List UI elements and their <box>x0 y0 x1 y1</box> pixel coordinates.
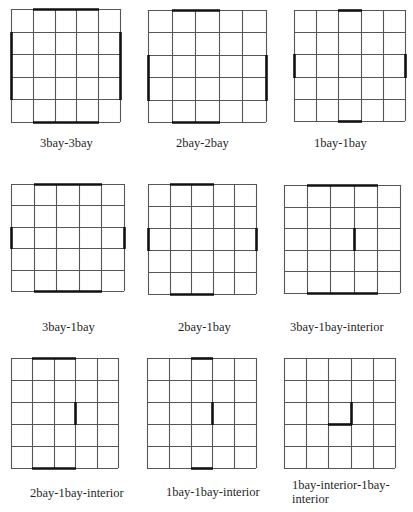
grid-diagram <box>284 358 395 468</box>
grid-diagram <box>148 10 266 122</box>
grid-diagram <box>148 184 256 294</box>
panel-3bay-3bay <box>11 9 120 122</box>
panel-caption: 3bay-1bay-interior <box>290 320 384 334</box>
panel-caption: 3bay-1bay <box>42 320 95 334</box>
grid-diagram <box>294 10 405 121</box>
grid-diagram <box>11 184 124 291</box>
panel-3bay-1bay-interior <box>284 185 400 293</box>
panel-3bay-1bay <box>11 184 124 291</box>
panel-1bay-interior-1bay-interior <box>284 358 395 468</box>
panel-caption: 1bay-1bay <box>314 136 367 150</box>
panel-caption: 2bay-1bay-interior <box>30 486 124 500</box>
panel-2bay-1bay-interior <box>11 358 118 468</box>
panel-caption: 2bay-2bay <box>176 136 229 150</box>
panel-2bay-2bay <box>148 10 266 122</box>
panel-1bay-1bay <box>294 10 405 121</box>
grid-diagram <box>11 358 118 468</box>
grid-diagram <box>11 9 120 122</box>
panel-2bay-1bay <box>148 184 256 294</box>
panel-caption: 1bay-interior-1bay- interior <box>292 478 390 506</box>
grid-diagram <box>147 358 256 468</box>
panel-caption: 3bay-3bay <box>40 136 93 150</box>
panel-1bay-1bay-interior <box>147 358 256 468</box>
panel-caption: 1bay-1bay-interior <box>166 485 260 499</box>
panel-caption: 2bay-1bay <box>178 320 231 334</box>
grid-diagram <box>284 185 400 293</box>
